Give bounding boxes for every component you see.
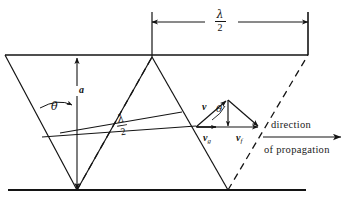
boundary-lines bbox=[5, 55, 308, 190]
two-denominator: 2 bbox=[207, 22, 233, 33]
ray-middle-descending bbox=[152, 57, 228, 190]
ray-left-descending bbox=[5, 55, 77, 190]
aperture-label: a bbox=[79, 85, 84, 95]
lambda-numerator: λ bbox=[207, 9, 233, 21]
top-half-wavelength-label: λ 2 bbox=[207, 9, 233, 33]
theta-angle-label: θ bbox=[51, 101, 58, 112]
velocity-phase-subscript: f bbox=[240, 137, 242, 145]
propagation-direction-line1: direction bbox=[271, 120, 311, 131]
velocity-resultant-label: v bbox=[202, 102, 206, 112]
velocity-group-label: vg bbox=[203, 128, 211, 145]
wave-propagation-diagram: λ 2 λ 2 a θ θ v vg vf direction of propa… bbox=[0, 0, 345, 204]
propagation-direction-line2: of propagation bbox=[264, 145, 330, 156]
diagonal-half-wavelength-label: λ 2 bbox=[108, 111, 136, 139]
theta-triangle-label: θ bbox=[216, 104, 222, 114]
velocity-group-subscript: g bbox=[207, 137, 211, 145]
velocity-phase-label: vf bbox=[236, 128, 242, 145]
velocity-hypotenuse-right bbox=[228, 100, 258, 126]
